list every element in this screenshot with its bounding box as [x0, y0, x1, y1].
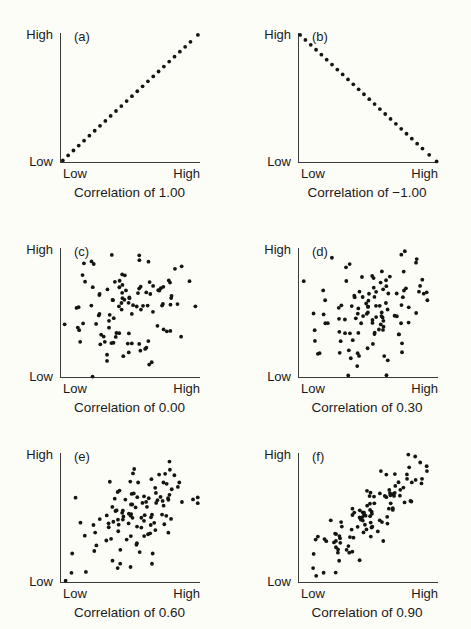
panel-letter-b: (b): [312, 30, 328, 43]
scatter-panel-c: High Low Low High (c) Correlation of 0.0…: [0, 215, 235, 420]
y-axis-low-label: Low: [267, 575, 291, 588]
panel-caption-f: Correlation of 0.90: [235, 606, 471, 620]
panel-caption-b: Correlation of −1.00: [235, 186, 471, 200]
y-axis-high-label: High: [264, 448, 291, 461]
x-axis-low-label: Low: [63, 382, 87, 395]
panel-caption-c: Correlation of 0.00: [0, 401, 235, 415]
scatter-panel-f: High Low Low High (f) Correlation of 0.9…: [235, 420, 471, 629]
plot-area-b: High Low Low High (b): [298, 33, 438, 163]
x-axis-high-label: High: [173, 167, 200, 180]
y-axis-high-label: High: [264, 243, 291, 256]
scatter-panel-e: High Low Low High (e) Correlation of 0.6…: [0, 420, 235, 629]
scatter-panel-d: High Low Low High (d) Correlation of 0.3…: [235, 215, 471, 420]
scatter-panel-a: High Low Low High (a) Correlation of 1.0…: [0, 0, 235, 215]
plot-area-f: High Low Low High (f): [298, 453, 438, 583]
scatter-points-a: [60, 33, 200, 163]
y-axis-high-label: High: [26, 448, 53, 461]
x-axis-high-label: High: [411, 587, 438, 600]
panel-letter-f: (f): [312, 450, 324, 463]
correlation-figure-grid: High Low Low High (a) Correlation of 1.0…: [0, 0, 471, 629]
x-axis-low-label: Low: [301, 587, 325, 600]
x-axis-low-label: Low: [63, 167, 87, 180]
scatter-points-f: [298, 453, 438, 583]
plot-area-e: High Low Low High (e): [60, 453, 200, 583]
y-axis-low-label: Low: [267, 370, 291, 383]
panel-letter-e: (e): [74, 450, 90, 463]
x-axis-high-label: High: [173, 587, 200, 600]
y-axis-high-label: High: [26, 243, 53, 256]
y-axis-low-label: Low: [29, 575, 53, 588]
plot-area-a: High Low Low High (a): [60, 33, 200, 163]
x-axis-high-label: High: [411, 382, 438, 395]
x-axis-low-label: Low: [301, 382, 325, 395]
scatter-points-c: [60, 248, 200, 378]
y-axis-low-label: Low: [29, 155, 53, 168]
panel-letter-d: (d): [312, 245, 328, 258]
y-axis-low-label: Low: [29, 370, 53, 383]
panel-caption-d: Correlation of 0.30: [235, 401, 471, 415]
x-axis-high-label: High: [411, 167, 438, 180]
y-axis-high-label: High: [264, 28, 291, 41]
y-axis-low-label: Low: [267, 155, 291, 168]
panel-letter-c: (c): [74, 245, 89, 258]
x-axis-low-label: Low: [63, 587, 87, 600]
scatter-panel-b: High Low Low High (b) Correlation of −1.…: [235, 0, 471, 215]
plot-area-c: High Low Low High (c): [60, 248, 200, 378]
scatter-points-d: [298, 248, 438, 378]
panel-caption-e: Correlation of 0.60: [0, 606, 235, 620]
scatter-points-b: [298, 33, 438, 163]
x-axis-high-label: High: [173, 382, 200, 395]
x-axis-low-label: Low: [301, 167, 325, 180]
panel-letter-a: (a): [74, 30, 90, 43]
plot-area-d: High Low Low High (d): [298, 248, 438, 378]
y-axis-high-label: High: [26, 28, 53, 41]
panel-caption-a: Correlation of 1.00: [0, 186, 235, 200]
scatter-points-e: [60, 453, 200, 583]
